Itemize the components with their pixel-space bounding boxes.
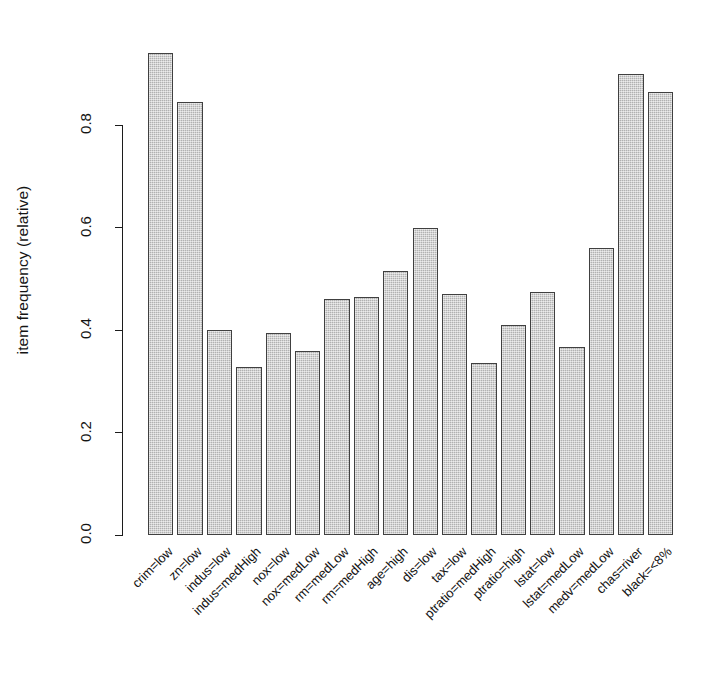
bar	[559, 347, 584, 535]
item-frequency-bar-chart: item frequency (relative) 0.00.20.40.60.…	[0, 0, 709, 683]
bar	[589, 248, 614, 535]
bar	[383, 271, 408, 535]
bar	[530, 292, 555, 535]
bar	[324, 299, 349, 535]
bar	[354, 297, 379, 535]
bar	[413, 228, 438, 536]
bar	[266, 333, 291, 535]
bar	[236, 367, 261, 535]
bar	[501, 325, 526, 535]
bar	[618, 74, 643, 535]
bar	[295, 351, 320, 536]
bar	[207, 330, 232, 535]
bar	[648, 92, 673, 535]
bar	[148, 53, 173, 535]
bar	[471, 363, 496, 535]
bar	[442, 294, 467, 535]
bar	[177, 102, 202, 535]
